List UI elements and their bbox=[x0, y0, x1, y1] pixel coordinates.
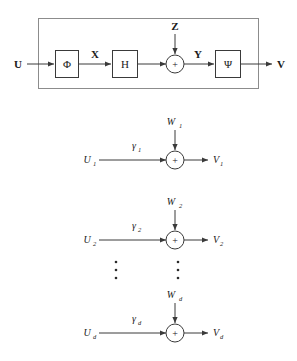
channel-1-output-subscript: 1 bbox=[220, 160, 223, 167]
phi-block-label: Φ bbox=[63, 58, 71, 70]
ellipsis-dot bbox=[115, 269, 118, 272]
top-input-label: U bbox=[14, 58, 22, 70]
top-output-label: V bbox=[277, 58, 285, 70]
channel-row-1: U 1 γ 1 W 1 + V 1 bbox=[83, 116, 223, 169]
channel-2-noise-subscript: 2 bbox=[179, 202, 183, 209]
channel-row-2: U 2 γ 2 W 2 + V 2 bbox=[83, 196, 224, 249]
diagram-svg: U Φ X H Z + Y bbox=[0, 0, 297, 361]
top-block-diagram: U Φ X H Z + Y bbox=[14, 19, 285, 89]
ellipsis-dot bbox=[177, 277, 180, 280]
noise-z-label: Z bbox=[171, 20, 178, 32]
channel-d-noise-subscript: d bbox=[179, 295, 183, 302]
figure-container: U Φ X H Z + Y bbox=[0, 0, 297, 361]
top-sum-plus-symbol: + bbox=[172, 59, 178, 70]
channel-1-noise-subscript: 1 bbox=[179, 122, 182, 129]
ellipsis-left-column bbox=[115, 261, 118, 280]
h-block-label: H bbox=[121, 58, 129, 70]
channel-1-gain-label: γ bbox=[132, 140, 137, 151]
ellipsis-right-column bbox=[177, 261, 180, 280]
channel-d-sum-plus-symbol: + bbox=[172, 328, 178, 339]
channel-2-output-subscript: 2 bbox=[220, 240, 224, 247]
channel-2-input-label: U bbox=[83, 234, 91, 245]
channel-2-gain-subscript: 2 bbox=[138, 226, 142, 233]
channel-1-sum-plus-symbol: + bbox=[172, 155, 178, 166]
channel-d-gain-subscript: d bbox=[138, 319, 142, 326]
channel-row-d: U d γ d W d + V d bbox=[83, 289, 224, 342]
channel-1-input-subscript: 1 bbox=[93, 160, 96, 167]
channel-2-input-subscript: 2 bbox=[93, 240, 97, 247]
signal-y-label: Y bbox=[194, 48, 202, 60]
channel-d-input-label: U bbox=[83, 327, 91, 338]
channel-1-input-label: U bbox=[83, 154, 91, 165]
channel-2-sum-plus-symbol: + bbox=[172, 235, 178, 246]
channel-d-gain-label: γ bbox=[132, 313, 137, 324]
channel-2-gain-label: γ bbox=[132, 220, 137, 231]
signal-x-label: X bbox=[91, 48, 99, 60]
ellipsis-dot bbox=[177, 261, 180, 264]
psi-block-label: Ψ bbox=[224, 58, 233, 70]
ellipsis-dot bbox=[177, 269, 180, 272]
channel-d-output-subscript: d bbox=[220, 333, 224, 340]
channel-1-gain-subscript: 1 bbox=[138, 146, 141, 153]
channel-2-noise-label: W bbox=[167, 196, 177, 207]
ellipsis-dot bbox=[115, 277, 118, 280]
channel-1-noise-label: W bbox=[167, 116, 177, 127]
ellipsis-dot bbox=[115, 261, 118, 264]
channel-d-noise-label: W bbox=[167, 289, 177, 300]
channel-d-input-subscript: d bbox=[93, 333, 97, 340]
